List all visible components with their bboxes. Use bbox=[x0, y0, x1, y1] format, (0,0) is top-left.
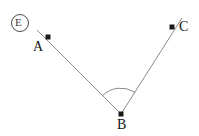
point-label-a: A bbox=[33, 40, 43, 54]
point-label-c: C bbox=[179, 20, 188, 34]
point-label-b: B bbox=[117, 118, 126, 132]
point-marker-a bbox=[46, 35, 51, 40]
point-marker-c bbox=[170, 25, 175, 30]
figure-svg bbox=[0, 0, 199, 136]
ray-b-to-c bbox=[121, 18, 182, 114]
badge-label: E bbox=[15, 17, 22, 28]
ray-b-to-a bbox=[37, 30, 121, 114]
angle-figure-canvas: E A B C bbox=[0, 0, 199, 136]
angle-arc-at-b bbox=[103, 88, 135, 95]
point-marker-b bbox=[119, 112, 124, 117]
